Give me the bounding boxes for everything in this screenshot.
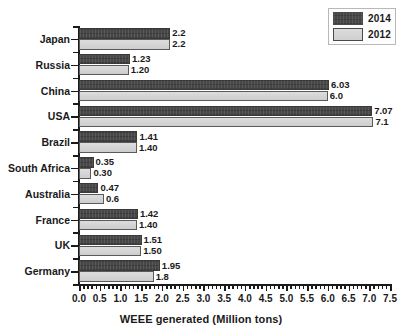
x-axis-minor-tick	[170, 285, 172, 289]
y-axis-minor-tick	[73, 78, 78, 80]
y-axis-tick	[71, 142, 78, 144]
y-axis-minor-tick	[73, 258, 78, 260]
bar-value-label: 1.8	[156, 272, 169, 282]
x-axis-minor-tick	[299, 285, 301, 289]
x-axis-tick-labels: 0.00.51.01.52.02.53.03.54.04.55.05.56.06…	[0, 294, 402, 308]
x-axis-minor-tick	[270, 285, 272, 289]
x-axis-minor-tick	[261, 285, 263, 289]
bar-value-label: 7.07	[374, 106, 393, 116]
bar-2012-south-africa	[79, 168, 91, 179]
weee-bar-chart: 2014 2012 Japan2.22.2Russia1.231.20China…	[0, 0, 402, 335]
x-axis-minor-tick	[303, 285, 305, 289]
x-axis-minor-tick	[166, 285, 168, 289]
bar-value-label: 1.95	[162, 261, 181, 271]
x-axis-major-tick	[328, 285, 330, 291]
x-axis-minor-tick	[241, 285, 243, 289]
bar-2012-russia	[79, 65, 129, 76]
x-axis-minor-tick	[373, 285, 375, 289]
x-axis-minor-tick	[145, 285, 147, 289]
x-axis-tick-label: 2.0	[155, 294, 169, 304]
y-axis-minor-tick	[73, 129, 78, 131]
bar-2014-germany	[79, 260, 160, 271]
legend-label-2014: 2014	[368, 14, 391, 24]
bar-2014-australia	[79, 183, 98, 194]
x-axis-minor-tick	[324, 285, 326, 289]
x-axis-major-tick	[307, 285, 309, 291]
y-axis-tick	[71, 271, 78, 273]
x-axis-tick-label: 3.0	[196, 294, 210, 304]
x-axis-minor-tick	[158, 285, 160, 289]
x-axis-major-tick	[266, 285, 268, 291]
x-axis-tick-label: 1.5	[134, 294, 148, 304]
x-axis-minor-tick	[112, 285, 114, 289]
y-axis-minor-tick	[73, 155, 78, 157]
y-axis-minor-tick	[73, 232, 78, 234]
x-axis-tick-label: 7.0	[362, 294, 376, 304]
bar-2014-china	[79, 80, 329, 91]
x-axis-major-tick	[286, 285, 288, 291]
x-axis-minor-tick	[96, 285, 98, 289]
y-axis-tick	[71, 91, 78, 93]
x-axis-tick-label: 3.5	[217, 294, 231, 304]
x-axis-minor-tick	[129, 285, 131, 289]
bar-2012-australia	[79, 194, 104, 205]
x-axis-minor-tick	[195, 285, 197, 289]
x-axis-major-tick	[79, 285, 81, 291]
x-axis-minor-tick	[116, 285, 118, 289]
bar-2012-uk	[79, 246, 141, 257]
x-axis-tick-label: 6.0	[321, 294, 335, 304]
x-axis-minor-tick	[332, 285, 334, 289]
x-axis-minor-tick	[199, 285, 201, 289]
category-label-south-africa: South Africa	[0, 163, 70, 174]
x-axis-minor-tick	[378, 285, 380, 289]
x-axis-tick-label: 0.0	[72, 294, 86, 304]
x-axis-minor-tick	[344, 285, 346, 289]
x-axis-minor-tick	[361, 285, 363, 289]
category-label-germany: Germany	[0, 266, 70, 277]
category-label-brazil: Brazil	[0, 137, 70, 148]
bar-2014-south-africa	[79, 157, 94, 168]
y-axis-tick	[71, 65, 78, 67]
x-axis-major-tick	[183, 285, 185, 291]
x-axis-minor-tick	[216, 285, 218, 289]
bar-2014-france	[79, 209, 138, 220]
category-label-china: China	[0, 86, 70, 97]
x-axis-minor-tick	[365, 285, 367, 289]
bar-value-label: 1.42	[140, 209, 159, 219]
x-axis-tick-label: 0.5	[93, 294, 107, 304]
x-axis-minor-tick	[154, 285, 156, 289]
category-label-russia: Russia	[0, 60, 70, 71]
y-axis-tick	[71, 245, 78, 247]
legend-item-2014: 2014	[333, 12, 391, 25]
x-axis-minor-tick	[179, 285, 181, 289]
plot-area: Japan2.22.2Russia1.231.20China6.036.0USA…	[0, 26, 402, 294]
x-axis-minor-tick	[174, 285, 176, 289]
bar-2014-japan	[79, 28, 170, 39]
x-axis-minor-tick	[336, 285, 338, 289]
category-label-france: France	[0, 215, 70, 226]
bar-value-label: 1.41	[139, 132, 158, 142]
x-axis-tick-label: 5.0	[279, 294, 293, 304]
x-axis-tick-label: 6.5	[342, 294, 356, 304]
x-axis-tick-label: 4.0	[238, 294, 252, 304]
y-axis-minor-tick	[73, 26, 78, 28]
y-axis-tick	[71, 194, 78, 196]
x-axis-minor-tick	[208, 285, 210, 289]
x-axis-tick-label: 5.5	[300, 294, 314, 304]
bar-value-label: 6.03	[331, 80, 350, 90]
x-axis-minor-tick	[249, 285, 251, 289]
y-axis-tick	[71, 220, 78, 222]
x-axis-minor-tick	[104, 285, 106, 289]
x-axis-minor-tick	[212, 285, 214, 289]
x-axis-tick-label: 7.5	[383, 294, 397, 304]
bar-value-label: 2.2	[172, 39, 185, 49]
x-axis-minor-tick	[320, 285, 322, 289]
x-axis-major-tick	[100, 285, 102, 291]
x-axis-tick-label: 1.0	[114, 294, 128, 304]
bar-2012-germany	[79, 271, 154, 282]
bar-value-label: 6.0	[330, 91, 343, 101]
x-axis-minor-tick	[253, 285, 255, 289]
category-label-usa: USA	[0, 111, 70, 122]
x-axis-minor-tick	[282, 285, 284, 289]
x-axis-minor-tick	[340, 285, 342, 289]
